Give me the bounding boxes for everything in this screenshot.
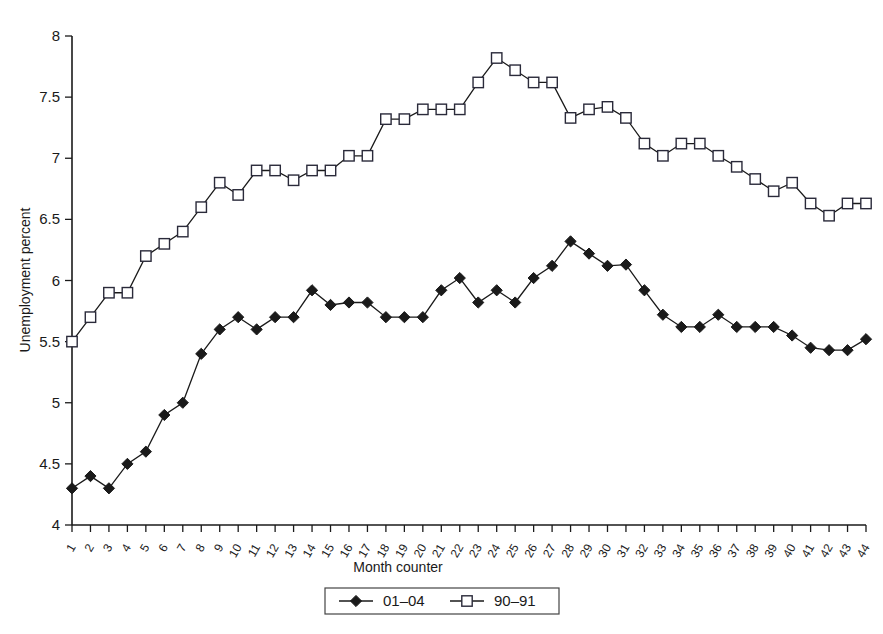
data-point-marker-square	[621, 113, 631, 123]
x-tick-label: 39	[761, 541, 780, 560]
x-tick-label: 30	[595, 541, 614, 560]
data-point-marker-square	[178, 226, 188, 236]
data-point-marker-diamond	[233, 312, 244, 323]
y-tick-label: 8	[52, 27, 60, 44]
data-point-marker-diamond	[565, 236, 576, 247]
data-point-marker-diamond	[122, 458, 133, 469]
data-point-marker-diamond	[787, 330, 798, 341]
data-point-marker-square	[436, 104, 446, 114]
x-tick-label: 5	[137, 541, 153, 554]
x-tick-label: 27	[540, 541, 559, 560]
data-point-marker-diamond	[491, 285, 502, 296]
data-point-marker-diamond	[473, 297, 484, 308]
data-point-marker-diamond	[251, 324, 262, 335]
x-tick-label: 24	[484, 541, 503, 560]
data-point-marker-square	[861, 198, 871, 208]
data-point-marker-diamond	[270, 312, 281, 323]
data-point-marker-square	[639, 138, 649, 148]
data-point-marker-diamond	[510, 297, 521, 308]
data-point-marker-square	[547, 77, 557, 87]
data-point-marker-diamond	[417, 312, 428, 323]
x-tick-label: 31	[614, 541, 633, 560]
y-tick-label: 4	[52, 516, 60, 533]
data-point-marker-diamond	[657, 309, 668, 320]
data-point-marker-diamond	[639, 285, 650, 296]
x-tick-label: 29	[577, 541, 596, 560]
data-point-marker-square	[676, 138, 686, 148]
x-tick-label: 33	[651, 541, 670, 560]
x-tick-label: 43	[835, 541, 854, 560]
data-point-marker-square	[695, 138, 705, 148]
x-tick-label: 21	[429, 541, 448, 560]
x-tick-label: 19	[392, 541, 411, 560]
data-point-marker-diamond	[140, 446, 151, 457]
data-point-marker-square	[528, 77, 538, 87]
data-point-marker-square	[491, 53, 501, 63]
data-point-marker-diamond	[454, 272, 465, 283]
data-point-marker-square	[473, 77, 483, 87]
data-point-marker-square	[251, 165, 261, 175]
data-point-marker-diamond	[713, 309, 724, 320]
x-tick-label: 32	[632, 541, 651, 560]
data-point-marker-diamond	[436, 285, 447, 296]
data-point-marker-square	[455, 104, 465, 114]
unemployment-line-chart: 87.576.565.554.54 1234567891011121314151…	[0, 0, 883, 634]
series-filled	[66, 236, 871, 494]
data-point-marker-diamond	[583, 248, 594, 259]
x-tick-label: 17	[355, 541, 374, 560]
x-tick-label: 10	[226, 541, 245, 560]
x-tick-label: 38	[743, 541, 762, 560]
x-tick-label: 37	[725, 541, 744, 560]
data-point-marker-square	[565, 113, 575, 123]
data-point-marker-square	[381, 114, 391, 124]
data-point-marker-diamond	[768, 321, 779, 332]
data-point-marker-square	[768, 186, 778, 196]
data-point-marker-diamond	[177, 397, 188, 408]
data-point-marker-square	[824, 211, 834, 221]
x-tick-label: 7	[174, 541, 190, 554]
data-point-marker-diamond	[546, 260, 557, 271]
data-point-marker-square	[270, 165, 280, 175]
legend-label-0: 01–04	[383, 592, 425, 609]
chart-legend: 01–0490–91	[325, 588, 559, 614]
data-point-marker-diamond	[620, 259, 631, 270]
x-tick-label: 41	[798, 541, 817, 560]
data-point-marker-square	[196, 202, 206, 212]
data-point-marker-diamond	[66, 483, 77, 494]
data-series-group	[66, 53, 871, 494]
y-tick-label: 6	[52, 272, 60, 289]
data-point-marker-square	[104, 288, 114, 298]
data-point-marker-diamond	[676, 321, 687, 332]
data-point-marker-square	[787, 178, 797, 188]
data-point-marker-diamond	[528, 272, 539, 283]
x-tick-label: 36	[706, 541, 725, 560]
data-point-marker-square	[750, 174, 760, 184]
x-tick-label: 44	[854, 541, 873, 560]
y-tick-label: 5.5	[39, 333, 60, 350]
data-point-marker-square	[399, 114, 409, 124]
x-tick-label: 12	[263, 541, 282, 560]
x-tick-label: 26	[521, 541, 540, 560]
data-point-marker-diamond	[823, 345, 834, 356]
chart-figure: 87.576.565.554.54 1234567891011121314151…	[0, 0, 883, 634]
y-tick-label: 4.5	[39, 455, 60, 472]
data-point-marker-square	[159, 239, 169, 249]
data-point-marker-square	[233, 190, 243, 200]
data-point-marker-square	[842, 198, 852, 208]
data-point-marker-square	[307, 165, 317, 175]
data-point-marker-square	[141, 251, 151, 261]
data-point-marker-diamond	[85, 471, 96, 482]
x-tick-label: 6	[155, 541, 171, 554]
data-point-marker-square	[344, 151, 354, 161]
data-point-marker-square	[462, 596, 472, 606]
x-tick-label: 22	[448, 541, 467, 560]
data-point-marker-square	[805, 198, 815, 208]
data-point-marker-square	[732, 162, 742, 172]
data-point-marker-diamond	[842, 345, 853, 356]
data-point-marker-diamond	[103, 483, 114, 494]
x-tick-label: 2	[82, 541, 98, 554]
data-point-marker-diamond	[805, 342, 816, 353]
x-tick-label: 1	[63, 541, 79, 554]
data-point-marker-diamond	[343, 297, 354, 308]
x-tick-label: 14	[300, 541, 319, 560]
